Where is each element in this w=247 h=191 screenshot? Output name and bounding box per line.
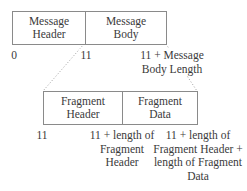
message-offset-end: 11 + Message Body Length <box>138 49 206 76</box>
fragment-offset-start: 11 <box>35 129 49 143</box>
fragment-data-cell: Fragment Data <box>122 92 197 124</box>
message-header-cell: Message Header <box>13 12 85 44</box>
fragment-box: Fragment Header Fragment Data <box>43 91 198 125</box>
message-box: Message Header Message Body <box>12 11 167 45</box>
message-body-cell: Message Body <box>85 12 166 44</box>
fragment-offset-data-start: 11 + length of Fragment Header <box>88 129 156 170</box>
message-offset-start: 0 <box>9 49 19 63</box>
fragment-header-cell: Fragment Header <box>44 92 122 124</box>
message-offset-body-start: 11 <box>79 49 93 63</box>
fragment-offset-end: 11 + length of Fragment Header + length … <box>152 129 244 183</box>
left-expansion-line <box>43 44 84 91</box>
